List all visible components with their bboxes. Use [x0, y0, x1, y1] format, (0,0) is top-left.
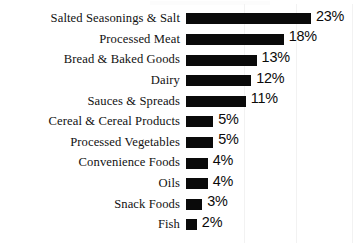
bar-track — [186, 55, 257, 66]
category-label: Oils — [159, 176, 180, 191]
bar-value-label: 5% — [218, 131, 238, 148]
bar-value-label: 4% — [213, 152, 233, 169]
category-label: Cereal & Cereal Products — [49, 114, 180, 129]
bar — [186, 34, 284, 45]
bar-chart: Salted Seasonings & Salt23%Processed Mea… — [0, 0, 359, 243]
bar-track — [186, 158, 208, 169]
chart-row: Oils4% — [0, 176, 359, 197]
bar-value-label: 13% — [262, 49, 290, 66]
category-label: Snack Foods — [114, 197, 180, 212]
category-label: Processed Vegetables — [70, 135, 180, 150]
bar-track — [186, 178, 208, 189]
chart-row: Snack Foods3% — [0, 197, 359, 218]
category-label: Sauces & Spreads — [87, 94, 180, 109]
chart-rows: Salted Seasonings & Salt23%Processed Mea… — [0, 0, 359, 243]
category-label: Salted Seasonings & Salt — [51, 11, 180, 26]
bar-value-label: 5% — [218, 111, 238, 128]
chart-row: Processed Vegetables5% — [0, 135, 359, 156]
bar — [186, 219, 197, 230]
bar-value-label: 3% — [207, 193, 227, 210]
bar-track — [186, 75, 251, 86]
category-label: Processed Meat — [99, 32, 180, 47]
category-label: Dairy — [151, 73, 180, 88]
bar-value-label: 12% — [256, 70, 284, 87]
bar-track — [186, 137, 213, 148]
category-label: Fish — [158, 217, 180, 232]
chart-row: Cereal & Cereal Products5% — [0, 114, 359, 135]
bar-track — [186, 219, 197, 230]
bar-track — [186, 34, 284, 45]
category-label: Bread & Baked Goods — [64, 52, 180, 67]
bar — [186, 116, 213, 127]
chart-row: Processed Meat18% — [0, 32, 359, 53]
bar — [186, 199, 202, 210]
bar — [186, 55, 257, 66]
bar-track — [186, 116, 213, 127]
bar — [186, 178, 208, 189]
bar — [186, 96, 246, 107]
bar-value-label: 23% — [316, 8, 344, 25]
bar-track — [186, 13, 311, 24]
category-label: Convenience Foods — [79, 155, 180, 170]
bar-track — [186, 96, 246, 107]
bar-value-label: 2% — [202, 214, 222, 231]
bar-value-label: 11% — [251, 90, 278, 107]
chart-row: Dairy12% — [0, 73, 359, 94]
bar — [186, 75, 251, 86]
bar — [186, 13, 311, 24]
bar — [186, 158, 208, 169]
chart-row: Fish2% — [0, 217, 359, 238]
bar — [186, 137, 213, 148]
chart-row: Convenience Foods4% — [0, 155, 359, 176]
chart-row: Sauces & Spreads11% — [0, 94, 359, 115]
bar-value-label: 18% — [289, 28, 317, 45]
bar-track — [186, 199, 202, 210]
bar-value-label: 4% — [213, 173, 233, 190]
chart-row: Bread & Baked Goods13% — [0, 52, 359, 73]
